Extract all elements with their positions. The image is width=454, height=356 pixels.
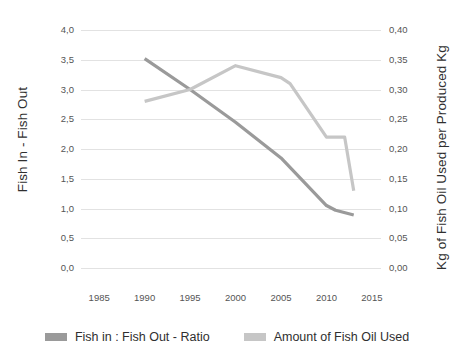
y-axis-left-title: Fish In - Fish Out <box>15 40 30 240</box>
y-axis-right-tick-label: 0,25 <box>389 113 408 124</box>
y-axis-right-tick-label: 0,40 <box>389 24 408 35</box>
x-axis-tick-label: 1995 <box>170 292 210 303</box>
y-axis-left-ticks: 0,00,51,01,52,02,53,03,54,0 <box>40 30 74 268</box>
legend-item[interactable]: Fish in : Fish Out - Ratio <box>45 330 210 344</box>
y-axis-right-tick-label: 0,20 <box>389 143 408 154</box>
plot-area <box>81 30 381 268</box>
legend-swatch <box>45 333 67 341</box>
x-axis-tick-label: 2015 <box>352 292 392 303</box>
legend-label: Amount of Fish Oil Used <box>274 330 409 344</box>
legend-swatch <box>244 333 266 341</box>
y-axis-left-tick-label: 0,0 <box>61 262 74 273</box>
y-axis-right-tick-label: 0,30 <box>389 84 408 95</box>
x-axis-tick-label: 1990 <box>125 292 165 303</box>
y-axis-right-title: Kg of Fish Oil Used per Produced Kg <box>434 13 449 303</box>
y-axis-left-tick-label: 2,5 <box>61 113 74 124</box>
y-axis-right-tick-label: 0,00 <box>389 262 408 273</box>
y-axis-right-tick-label: 0,35 <box>389 54 408 65</box>
series-layer <box>81 30 381 268</box>
y-axis-left-tick-label: 3,5 <box>61 54 74 65</box>
x-axis-tick-label: 2000 <box>216 292 256 303</box>
y-axis-right-tick-label: 0,05 <box>389 232 408 243</box>
x-axis-tick-label: 2010 <box>306 292 346 303</box>
y-axis-left-tick-label: 4,0 <box>61 24 74 35</box>
series-line <box>145 59 354 215</box>
line-chart: Fish In - Fish Out Kg of Fish Oil Used p… <box>0 0 454 356</box>
legend-label: Fish in : Fish Out - Ratio <box>75 330 210 344</box>
series-line <box>145 66 354 191</box>
x-axis-tick-label: 2005 <box>261 292 301 303</box>
legend-item[interactable]: Amount of Fish Oil Used <box>244 330 409 344</box>
y-axis-right-tick-label: 0,10 <box>389 203 408 214</box>
x-axis-tick-label: 1985 <box>79 292 119 303</box>
y-axis-left-tick-label: 1,5 <box>61 173 74 184</box>
y-axis-left-tick-label: 0,5 <box>61 232 74 243</box>
chart-legend: Fish in : Fish Out - RatioAmount of Fish… <box>0 330 454 344</box>
y-axis-left-tick-label: 2,0 <box>61 143 74 154</box>
y-axis-left-tick-label: 3,0 <box>61 84 74 95</box>
gridline <box>81 268 381 269</box>
x-axis-ticks: 1985199019952000200520102015 <box>81 292 381 306</box>
y-axis-right-ticks: 0,000,050,100,150,200,250,300,350,40 <box>389 30 423 268</box>
y-axis-right-tick-label: 0,15 <box>389 173 408 184</box>
y-axis-left-tick-label: 1,0 <box>61 203 74 214</box>
